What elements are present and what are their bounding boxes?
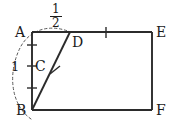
- geometry-figure: A B C D E F 1 1 2: [0, 0, 173, 128]
- length-label-left-side: 1: [11, 60, 19, 73]
- point-label-F: F: [156, 103, 166, 117]
- point-label-C: C: [35, 59, 46, 73]
- fraction-label-one-half: 1 2: [50, 3, 62, 29]
- fraction-numerator: 1: [50, 3, 62, 16]
- point-label-A: A: [15, 25, 25, 39]
- point-label-B: B: [16, 103, 26, 117]
- point-label-D: D: [72, 35, 83, 49]
- fraction-denominator: 2: [50, 17, 62, 30]
- point-label-E: E: [156, 25, 166, 39]
